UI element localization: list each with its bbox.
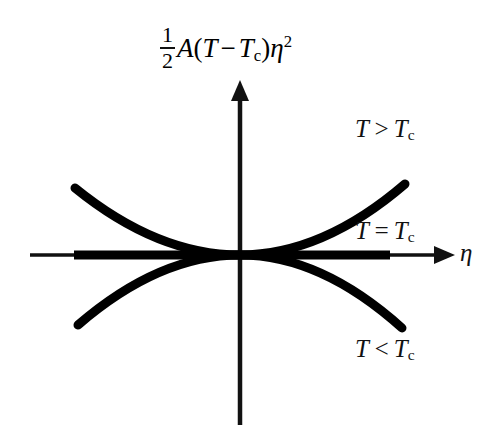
- curve-label-t-equals-tc: T=Tc: [355, 218, 415, 243]
- title-open-paren: (: [194, 33, 203, 63]
- y-axis-arrowhead: [231, 80, 249, 101]
- label-equal-temperature: T: [355, 217, 369, 244]
- label-above-subscript: c: [408, 126, 415, 143]
- label-equal-relation: =: [369, 217, 394, 244]
- x-axis-arrowhead: [434, 246, 455, 264]
- fraction-denominator: 2: [160, 49, 175, 72]
- label-equal-subscript: c: [408, 228, 415, 245]
- title-minus-sign: −: [218, 33, 239, 63]
- label-equal-critical: T: [394, 217, 408, 244]
- title-order-parameter: η: [270, 33, 283, 63]
- one-half-fraction: 1 2: [160, 24, 175, 73]
- label-above-critical: T: [394, 115, 408, 142]
- curve-label-t-greater-tc: T>Tc: [355, 116, 415, 141]
- title-coefficient: A: [177, 33, 194, 63]
- label-above-relation: >: [369, 115, 394, 142]
- label-above-temperature: T: [355, 115, 369, 142]
- title-body: A(T−Tc)η2: [177, 33, 292, 64]
- fraction-numerator: 1: [160, 24, 175, 47]
- title-exponent: 2: [284, 32, 292, 51]
- x-axis-label: η: [460, 240, 472, 265]
- y-axis-title-expression: 1 2 A(T−Tc)η2: [160, 24, 292, 73]
- label-below-subscript: c: [408, 346, 415, 363]
- label-below-relation: <: [369, 335, 394, 362]
- label-below-temperature: T: [355, 335, 369, 362]
- title-close-paren: ): [261, 33, 270, 63]
- curve-label-t-less-tc: T<Tc: [355, 336, 415, 361]
- title-temperature: T: [203, 33, 218, 63]
- label-below-critical: T: [394, 335, 408, 362]
- title-critical-temperature: T: [239, 33, 254, 63]
